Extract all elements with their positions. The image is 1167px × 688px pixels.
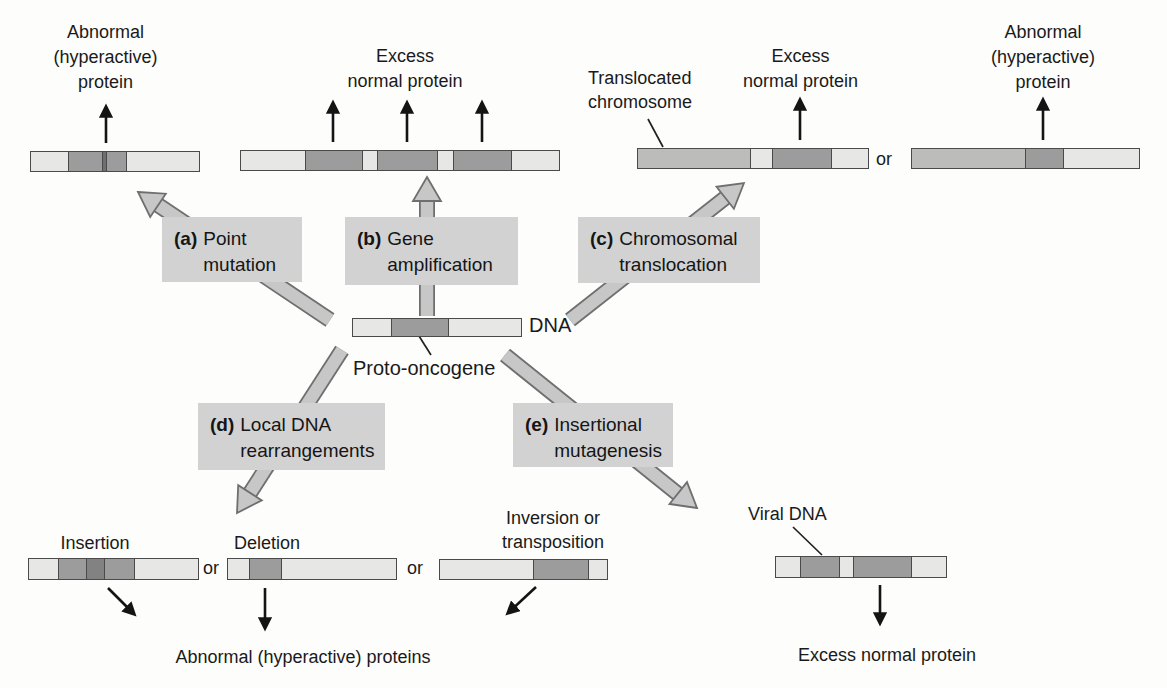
bar-segment-light xyxy=(511,151,559,170)
bar-segment-light xyxy=(839,557,854,577)
or-separator-top: or xyxy=(876,149,892,170)
outcome-label-gene-amplification: Excess normal protein xyxy=(315,44,495,94)
bar-segment-light xyxy=(228,559,249,579)
bar-segment-light xyxy=(1063,149,1139,168)
chromosome-bar-viral-insertion xyxy=(775,556,947,578)
bar-segment-light xyxy=(126,152,199,171)
mechanism-box-point-mutation: (a) Point mutation xyxy=(162,217,302,282)
bar-segment-dark xyxy=(853,557,911,577)
bar-segment-light xyxy=(588,560,607,579)
mechanism-letter-e: (e) xyxy=(525,412,548,458)
viral-dna-label: Viral DNA xyxy=(748,502,827,527)
outcome-label-rearrangements: Abnormal (hyperactive) proteins xyxy=(158,645,448,670)
bar-segment-dark xyxy=(533,560,588,579)
mechanism-box-chromosomal-translocation: (c) Chromosomal translocation xyxy=(578,217,760,283)
translocated-pointer-line xyxy=(648,119,663,147)
bar-segment-dark xyxy=(453,151,511,170)
bar-segment-dark xyxy=(800,557,838,577)
chromosome-bar-inversion xyxy=(439,559,608,580)
outcome-label-translocation: Excess normal protein xyxy=(733,44,868,94)
chromosome-bar-translocated-2 xyxy=(911,148,1140,169)
bar-segment-dark xyxy=(305,151,362,170)
mechanism-name-e: Insertional mutagenesis xyxy=(554,412,662,458)
mechanism-box-gene-amplification: (b) Gene amplification xyxy=(345,217,518,285)
chromosome-bar-insertion xyxy=(28,558,199,580)
chromosome-bar-point-mutated xyxy=(30,151,200,172)
or-separator-bottom-1: or xyxy=(203,558,219,579)
bar-segment-light xyxy=(353,319,391,336)
proto-oncogene-pointer-line xyxy=(419,336,431,355)
insertion-label: Insertion xyxy=(20,531,170,556)
bar-segment-dark xyxy=(104,559,133,579)
bar-segment-light xyxy=(134,559,198,579)
chromosome-bar-translocated-1 xyxy=(637,148,869,169)
insertion-result-arrow xyxy=(108,588,134,614)
inversion-transposition-label: Inversion or transposition xyxy=(468,506,638,554)
bar-segment-dark xyxy=(377,151,437,170)
mechanism-letter-b: (b) xyxy=(357,226,381,276)
bar-segment-light xyxy=(911,557,946,577)
bar-segment-light xyxy=(440,560,533,579)
mechanism-box-local-dna-rearrangements: (d) Local DNA rearrangements xyxy=(198,403,385,470)
inversion-result-arrow xyxy=(508,587,536,613)
outcome-label-insertional-mutagenesis: Excess normal protein xyxy=(787,643,987,668)
bar-segment-dark xyxy=(391,319,448,336)
bar-segment-dark xyxy=(249,559,282,579)
bar-segment-light xyxy=(29,559,58,579)
dna-bar-proto-oncogene xyxy=(352,318,522,337)
mechanism-name-d: Local DNA rearrangements xyxy=(240,412,374,461)
deletion-label: Deletion xyxy=(224,531,310,556)
bar-segment-light xyxy=(750,149,773,168)
bar-segment-insert xyxy=(86,559,105,579)
mechanism-name-b: Gene amplification xyxy=(387,226,493,276)
bar-segment-dark xyxy=(58,559,85,579)
bar-segment-medium xyxy=(912,149,1025,168)
bar-segment-light xyxy=(241,151,305,170)
translocated-chromosome-label: Translocated chromosome xyxy=(588,66,713,114)
bar-segment-dark xyxy=(772,149,830,168)
oncogene-mechanisms-diagram: Abnormal (hyperactive) protein Excess no… xyxy=(0,0,1167,688)
bar-segment-light xyxy=(776,557,800,577)
bar-segment-dark xyxy=(1025,149,1063,168)
mechanism-letter-a: (a) xyxy=(174,226,197,273)
outcome-label-translocation-alt: Abnormal (hyperactive) protein xyxy=(973,20,1113,95)
bar-segment-light xyxy=(362,151,378,170)
chromosome-bar-amplified xyxy=(240,150,560,171)
mechanism-box-insertional-mutagenesis: (e) Insertional mutagenesis xyxy=(513,403,673,467)
or-separator-bottom-2: or xyxy=(407,558,423,579)
arrow-layer xyxy=(0,0,1167,688)
bar-segment-dark xyxy=(106,152,126,171)
viral-dna-pointer-line xyxy=(793,527,822,555)
bar-segment-light xyxy=(831,149,869,168)
bar-segment-light xyxy=(281,559,396,579)
dna-label: DNA xyxy=(529,313,571,338)
proto-oncogene-label: Proto-oncogene xyxy=(353,356,495,381)
chromosome-bar-deletion xyxy=(227,558,397,580)
mechanism-name-a: Point mutation xyxy=(203,226,276,273)
bar-segment-light xyxy=(448,319,521,336)
bar-segment-dark xyxy=(68,152,102,171)
outcome-label-point-mutation: Abnormal (hyperactive) protein xyxy=(28,20,183,95)
mechanism-letter-c: (c) xyxy=(590,226,613,274)
mechanism-letter-d: (d) xyxy=(210,412,234,461)
bar-segment-light xyxy=(437,151,453,170)
bar-segment-light xyxy=(31,152,68,171)
mechanism-name-c: Chromosomal translocation xyxy=(619,226,737,274)
bar-segment-medium xyxy=(638,149,750,168)
